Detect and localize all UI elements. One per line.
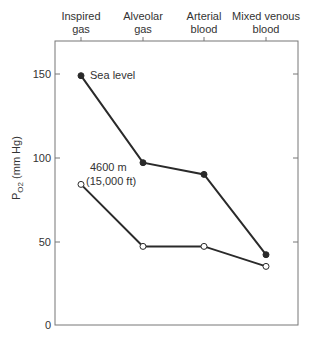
data-point-marker bbox=[263, 252, 269, 258]
category-label-inspired: Inspired bbox=[61, 10, 100, 22]
po2-chart: Inspired gas Alveolar gas Arterial blood… bbox=[0, 0, 310, 338]
svg-text:gas: gas bbox=[72, 23, 90, 35]
svg-text:gas: gas bbox=[134, 23, 152, 35]
svg-text:150: 150 bbox=[33, 68, 51, 80]
svg-text:blood: blood bbox=[191, 23, 218, 35]
series-4600m bbox=[78, 181, 269, 269]
data-point-marker bbox=[140, 160, 146, 166]
svg-text:50: 50 bbox=[39, 236, 51, 248]
svg-text:blood: blood bbox=[253, 23, 280, 35]
svg-text:PO2 (mm Hg): PO2 (mm Hg) bbox=[10, 136, 25, 200]
y-axis-label: PO2 (mm Hg) bbox=[10, 136, 25, 200]
data-point-marker bbox=[78, 73, 84, 79]
x-ticks bbox=[81, 37, 266, 41]
data-point-marker bbox=[140, 243, 146, 249]
svg-text:100: 100 bbox=[33, 152, 51, 164]
series-label-sea-level: Sea level bbox=[90, 69, 135, 81]
category-label-alveolar: Alveolar bbox=[123, 10, 163, 22]
data-point-marker bbox=[263, 263, 269, 269]
category-label-arterial: Arterial bbox=[187, 10, 222, 22]
x-category-labels: Inspired gas Alveolar gas Arterial blood… bbox=[61, 10, 300, 35]
y-ticks bbox=[55, 74, 298, 242]
data-point-marker bbox=[201, 243, 207, 249]
series-label-altitude: 4600 m bbox=[90, 161, 127, 173]
y-tick-labels: 150 100 50 0 bbox=[33, 68, 51, 331]
svg-text:0: 0 bbox=[45, 319, 51, 331]
data-point-marker bbox=[201, 171, 207, 177]
series-label-altitude-ft: (15,000 ft) bbox=[86, 175, 136, 187]
category-label-mixed-venous: Mixed venous bbox=[232, 10, 300, 22]
data-point-marker bbox=[78, 181, 84, 187]
